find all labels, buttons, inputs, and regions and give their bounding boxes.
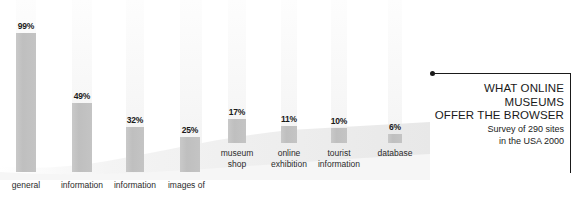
bar-category-label: general <box>12 180 40 191</box>
bar-value-label: 11% <box>281 114 297 124</box>
callout-title-line2: OFFER THE BROWSER <box>430 109 564 123</box>
bar-category-line1: information <box>61 180 103 190</box>
bar[interactable] <box>180 137 200 172</box>
bar-value-label: 17% <box>229 107 245 117</box>
callout-block: WHAT ONLINE MUSEUMS OFFER THE BROWSER Su… <box>430 66 588 178</box>
bar-group: 6% database <box>388 134 402 143</box>
bar-value-label: 25% <box>182 125 198 135</box>
bar-category-line1: images of <box>168 180 205 190</box>
bar-group: 49% information <box>72 103 92 172</box>
bar[interactable] <box>72 103 92 172</box>
bar-group: 99% general <box>16 33 36 172</box>
bar-category-label: database <box>378 148 413 159</box>
bar-group: 17% museum shop <box>228 119 246 143</box>
bar-category-line1: museum <box>221 148 254 158</box>
bar-category-line2: exhibition <box>271 159 307 169</box>
callout-horizontal-rule <box>432 73 571 74</box>
callout-subtitle-line2: in the USA 2000 <box>430 136 564 147</box>
bar-category-label: images of <box>168 180 205 191</box>
bar-category-line1: tourist <box>327 148 350 158</box>
callout-title-line1: WHAT ONLINE MUSEUMS <box>430 82 564 109</box>
bar-value-label: 10% <box>331 116 347 126</box>
bar[interactable] <box>126 127 144 172</box>
bar-category-label: museum shop <box>221 148 254 169</box>
bar-category-label: tourist information <box>318 148 360 169</box>
bar-value-label: 99% <box>18 21 34 31</box>
bar-value-label: 32% <box>127 115 143 125</box>
callout-vertical-rule <box>570 73 571 173</box>
bar-category-line1: general <box>12 180 40 190</box>
callout-text: WHAT ONLINE MUSEUMS OFFER THE BROWSER Su… <box>430 82 564 147</box>
bar-group: 11% online exhibition <box>281 126 297 143</box>
bar-value-label: 6% <box>389 122 401 132</box>
bar[interactable] <box>228 119 246 143</box>
bar-category-label: information <box>61 180 103 191</box>
bar-category-line2: shop <box>228 159 246 169</box>
bar-category-line1: online <box>278 148 301 158</box>
plot-area: 99% general 49% information 32% informat… <box>0 0 430 201</box>
bar[interactable] <box>331 128 347 143</box>
bar-category-line2: information <box>318 159 360 169</box>
bar-category-label: information <box>114 180 156 191</box>
bar-category-line1: database <box>378 148 413 158</box>
bar[interactable] <box>16 33 36 172</box>
bar-value-label: 49% <box>74 91 90 101</box>
bar-category-label: online exhibition <box>271 148 307 169</box>
chart-figure: 99% general 49% information 32% informat… <box>0 0 588 201</box>
bar-group: 32% information <box>126 127 144 172</box>
bar-category-line1: information <box>114 180 156 190</box>
bar[interactable] <box>388 134 402 143</box>
bar-group: 25% images of <box>180 137 200 172</box>
bar-group: 10% tourist information <box>331 128 347 143</box>
bar[interactable] <box>281 126 297 143</box>
callout-subtitle-line1: Survey of 290 sites <box>430 124 564 135</box>
